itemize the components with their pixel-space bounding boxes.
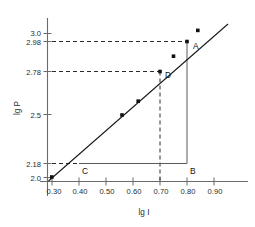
annotation-c: C xyxy=(82,166,88,176)
data-point xyxy=(120,113,124,117)
data-point xyxy=(172,54,176,58)
x-tick-label-0-60: 0.60 xyxy=(127,187,142,196)
x-tick-label-0-40: 0.40 xyxy=(73,187,88,196)
data-point xyxy=(185,40,189,44)
y-tick-label-2-98: 2.98 xyxy=(26,38,41,47)
data-point xyxy=(136,99,140,103)
y-axis-title: lg P xyxy=(13,100,22,115)
x-tick-labels: 0.30 0.40 0.50 0.60 0.70 0.80 0.90 xyxy=(47,187,223,196)
x-tick-label-0-70: 0.70 xyxy=(154,187,169,196)
annotation-a: A xyxy=(193,41,199,51)
x-axis-title: lg I xyxy=(139,208,150,217)
point-annotations: A B C D xyxy=(82,41,199,176)
triangle-construction xyxy=(79,42,187,164)
y-tick-label-2-0: 2.0 xyxy=(30,174,41,183)
chart-figure: 3.0 2.98 2.78 2.5 2.18 2.0 0.30 0.40 0.5… xyxy=(0,0,255,227)
data-point xyxy=(196,29,200,33)
data-point-markers xyxy=(50,29,200,179)
x-tick-label-0-80: 0.80 xyxy=(181,187,196,196)
y-tick-labels: 3.0 2.98 2.78 2.5 2.18 2.0 xyxy=(26,29,41,183)
plot-area: 3.0 2.98 2.78 2.5 2.18 2.0 0.30 0.40 0.5… xyxy=(0,0,255,227)
y-tick-label-2-5: 2.5 xyxy=(30,111,41,120)
data-point xyxy=(50,175,54,179)
annotation-d: D xyxy=(165,70,171,80)
annotation-b: B xyxy=(190,166,196,176)
x-tick-label-0-90: 0.90 xyxy=(208,187,223,196)
axes-group xyxy=(40,18,248,196)
x-tick-label-0-30: 0.30 xyxy=(47,187,62,196)
x-tick-label-0-50: 0.50 xyxy=(100,187,115,196)
y-tick-label-2-78: 2.78 xyxy=(26,68,41,77)
y-tick-label-2-18: 2.18 xyxy=(26,160,41,169)
data-point xyxy=(158,70,162,74)
